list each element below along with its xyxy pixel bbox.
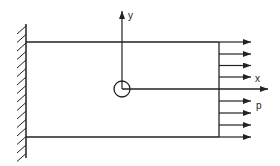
diagram-canvas: y x p xyxy=(0,0,280,166)
x-axis-label: x xyxy=(255,73,260,84)
fixed-wall-support xyxy=(17,24,26,162)
load-label: p xyxy=(256,100,262,111)
y-axis-label: y xyxy=(128,10,133,21)
